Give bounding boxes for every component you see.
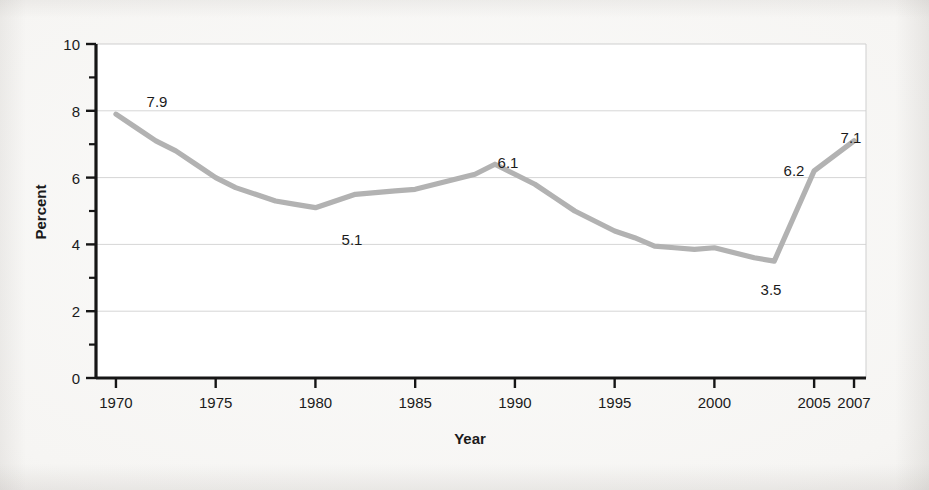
x-tick-label-2007: 2007	[837, 394, 870, 411]
x-tick-label-2005: 2005	[797, 394, 830, 411]
data-label-5-1: 5.1	[342, 231, 363, 248]
x-axis-title: Year	[454, 430, 486, 447]
data-label-6-2: 6.2	[784, 162, 805, 179]
plot-area-background	[96, 44, 866, 378]
chart-figure: 0246810197019751980198519901995200020052…	[0, 0, 929, 490]
data-label-3-5: 3.5	[761, 281, 782, 298]
y-tick-label-10: 10	[63, 36, 80, 53]
data-label-6-1: 6.1	[498, 154, 519, 171]
data-label-7-1: 7.1	[841, 129, 862, 146]
data-label-7-9: 7.9	[147, 93, 168, 110]
y-tick-label-4: 4	[72, 236, 80, 253]
x-tick-label-1980: 1980	[299, 394, 332, 411]
scanned-page-background: 0246810197019751980198519901995200020052…	[0, 0, 929, 490]
y-tick-label-8: 8	[72, 103, 80, 120]
x-tick-label-2000: 2000	[698, 394, 731, 411]
y-tick-label-0: 0	[72, 370, 80, 387]
x-tick-label-1995: 1995	[598, 394, 631, 411]
x-tick-label-1970: 1970	[99, 394, 132, 411]
x-tick-label-1985: 1985	[398, 394, 431, 411]
x-tick-label-1975: 1975	[199, 394, 232, 411]
line-chart: 0246810197019751980198519901995200020052…	[0, 0, 929, 490]
x-tick-label-1990: 1990	[498, 394, 531, 411]
y-tick-label-6: 6	[72, 170, 80, 187]
y-tick-label-2: 2	[72, 303, 80, 320]
y-axis-title: Percent	[32, 184, 49, 239]
